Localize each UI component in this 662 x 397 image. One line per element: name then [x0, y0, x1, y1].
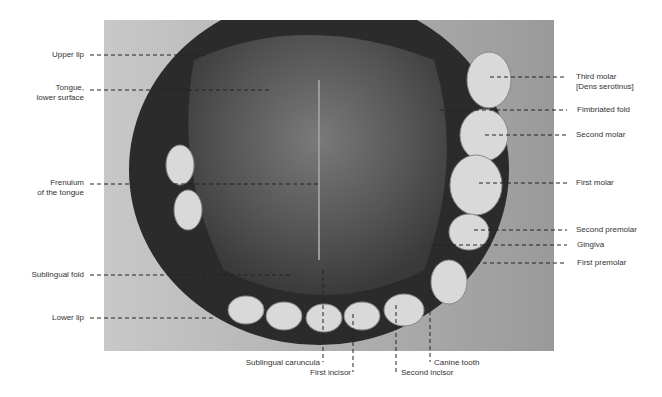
label-frenulum: Frenulum of the tongue — [37, 178, 84, 197]
label-fimbriated-fold: Fimbriated fold — [577, 105, 630, 115]
label-first-premolar: First premolar — [577, 258, 626, 268]
label-canine-tooth: Canine tooth — [434, 358, 479, 368]
label-gingiva: Gingiva — [577, 240, 604, 250]
label-third-molar: Third molar [Dens serotinus] — [576, 72, 634, 91]
label-second-premolar: Second premolar — [576, 225, 637, 235]
label-first-incisor: First incisor — [310, 368, 351, 378]
leader-lines — [0, 0, 662, 397]
label-tongue-lower-surface: Tongue, lower surface — [36, 83, 84, 102]
label-first-molar: First molar — [576, 178, 614, 188]
label-upper-lip: Upper lip — [52, 50, 84, 60]
label-sublingual-fold: Sublingual fold — [32, 270, 84, 280]
label-lower-lip: Lower lip — [52, 313, 84, 323]
label-sublingual-caruncula: Sublingual caruncula — [246, 358, 320, 368]
label-second-incisor: Second incisor — [401, 368, 453, 378]
label-second-molar: Second molar — [576, 130, 625, 140]
